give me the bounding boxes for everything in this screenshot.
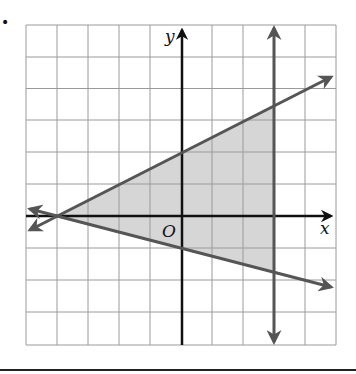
shaded-region	[57, 106, 274, 271]
x-axis-label: x	[320, 218, 330, 238]
inequality-graph: y x O	[0, 0, 356, 374]
origin-label: O	[162, 221, 176, 241]
bottom-divider	[0, 369, 356, 371]
y-axis-label: y	[164, 26, 175, 46]
